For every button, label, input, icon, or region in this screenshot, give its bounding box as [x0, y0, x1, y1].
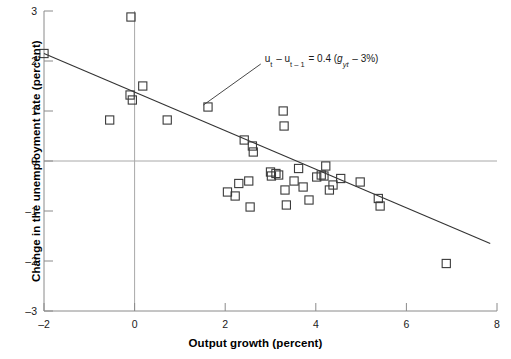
- x-tick-label: –2: [38, 318, 50, 330]
- regression-line: [44, 54, 490, 244]
- data-point-marker: [280, 122, 288, 130]
- data-point-marker: [106, 116, 114, 124]
- y-axis-title: Change in the unemployment rate (percent…: [30, 42, 42, 282]
- data-point-marker: [163, 116, 171, 124]
- chart-canvas: –3–2–10123–202468ut – ut – 1 = 0.4 (gyt …: [0, 0, 511, 359]
- x-tick-label: 8: [494, 318, 500, 330]
- data-point-marker: [235, 179, 243, 187]
- annotation-leader-line: [203, 64, 260, 105]
- y-tick-label: –3: [25, 305, 37, 317]
- x-tick-label: 2: [222, 318, 228, 330]
- data-points-group: [40, 13, 450, 268]
- data-point-marker: [356, 178, 364, 186]
- x-tick-label: 4: [313, 318, 319, 330]
- data-point-marker: [231, 192, 239, 200]
- data-point-marker: [223, 188, 231, 196]
- data-point-marker: [294, 164, 302, 172]
- data-point-marker: [279, 107, 287, 115]
- x-axis-title: Output growth (percent): [0, 337, 511, 349]
- data-point-marker: [290, 177, 298, 185]
- x-tick-label: 0: [132, 318, 138, 330]
- annotation-equation: ut – ut – 1 = 0.4 (gyt – 3%): [265, 53, 379, 69]
- data-point-marker: [305, 196, 313, 204]
- data-point-marker: [246, 203, 254, 211]
- data-point-marker: [126, 91, 134, 99]
- data-point-marker: [299, 183, 307, 191]
- data-point-marker: [282, 201, 290, 209]
- data-point-marker: [442, 259, 450, 267]
- okuns-law-scatter-figure: –3–2–10123–202468ut – ut – 1 = 0.4 (gyt …: [0, 0, 511, 359]
- data-point-marker: [245, 177, 253, 185]
- y-tick-label: 3: [31, 5, 37, 17]
- data-point-marker: [128, 96, 136, 104]
- data-point-marker: [139, 82, 147, 90]
- data-point-marker: [322, 162, 330, 170]
- x-tick-label: 6: [403, 318, 409, 330]
- data-point-marker: [127, 13, 135, 21]
- data-point-marker: [281, 186, 289, 194]
